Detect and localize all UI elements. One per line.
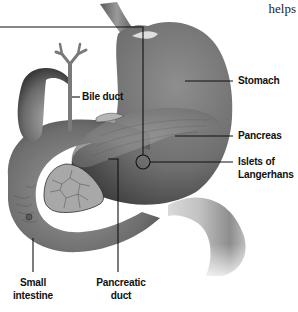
label-islets-of-langerhans: Islets of Langerhans	[238, 155, 294, 181]
label-small-intestine-line1: Small	[7, 276, 60, 289]
corner-body-text: helps	[269, 1, 296, 17]
label-pancreatic-duct-line1: Pancreatic	[92, 276, 150, 289]
label-small-intestine: Small intestine	[7, 276, 60, 302]
label-islets-line2: Langerhans	[238, 168, 294, 181]
bile-duct-shape	[56, 44, 86, 130]
label-islets-line1: Islets of	[238, 155, 294, 168]
label-pancreatic-duct-line2: duct	[92, 289, 150, 302]
label-stomach: Stomach	[238, 74, 280, 87]
label-bile-duct: Bile duct	[82, 90, 123, 103]
anatomy-diagram: helps Stomach Bile duct Pancreas Islets …	[0, 0, 298, 312]
label-pancreatic-duct: Pancreatic duct	[92, 276, 150, 302]
label-pancreas: Pancreas	[238, 129, 282, 142]
label-small-intestine-line2: intestine	[7, 289, 60, 302]
